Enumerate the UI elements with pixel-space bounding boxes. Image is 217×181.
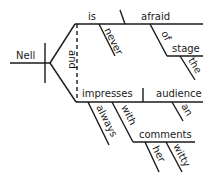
modifier-witty: witty (171, 142, 192, 169)
direct-object-audience: audience (156, 88, 202, 99)
preposition-with: with (119, 103, 138, 127)
modifier-her: her (150, 144, 168, 165)
preposition-of: of (159, 29, 173, 43)
fork-lower (50, 63, 76, 102)
sentence-diagram: Nell and is afraid never of stage the im… (0, 0, 217, 181)
conjunction-word: and (67, 50, 78, 69)
prep-object-comments: comments (139, 129, 192, 140)
modifier-an: an (179, 102, 195, 118)
verb-impresses: impresses (82, 88, 133, 99)
object-stage: stage (172, 43, 200, 54)
verb-is: is (88, 11, 96, 22)
complement-afraid: afraid (141, 11, 170, 22)
modifier-never: never (102, 26, 125, 57)
subject-word: Nell (16, 50, 35, 61)
complement-slash (120, 10, 125, 24)
modifier-the: the (186, 56, 204, 76)
